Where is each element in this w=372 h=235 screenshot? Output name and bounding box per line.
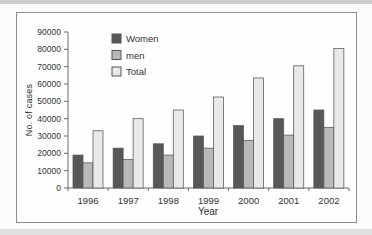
scan-edge-bottom [0,229,372,235]
bar-total-1996 [93,131,103,188]
bar-women-2001 [274,119,284,188]
legend-swatch-total [112,67,121,76]
bar-total-2001 [294,66,304,188]
bar-total-1997 [133,119,143,188]
bar-women-1999 [193,136,203,188]
bar-women-1996 [73,155,83,188]
bar-women-2002 [314,110,324,188]
y-axis-tick-label: 60000 [37,79,61,89]
bar-chart: 0100002000030000400005000060000700008000… [17,13,356,222]
bar-total-1999 [213,97,223,188]
scanned-figure-page: { "figure": { "ylabel": "No. of cases", … [0,0,372,235]
bar-women-2000 [234,126,244,188]
x-axis-category-label: 2001 [278,195,299,206]
y-axis-tick-label: 70000 [37,62,61,72]
y-axis-tick-label: 80000 [37,44,61,54]
x-axis-title: Year [153,206,263,217]
legend-label-women: Women [126,33,159,44]
x-axis-category-label: 1998 [158,195,179,206]
bar-men-2001 [284,135,294,188]
bar-men-1999 [203,148,213,188]
legend-label-men: men [126,50,144,61]
y-axis-tick-label: 90000 [37,27,61,37]
y-axis-tick-label: 50000 [37,96,61,106]
legend-label-total: Total [126,66,146,77]
bar-total-1998 [173,110,183,188]
bar-total-2002 [334,48,344,188]
scan-edge-top [0,0,372,4]
legend-swatch-women [112,34,121,43]
bar-men-1998 [163,155,173,188]
x-axis-category-label: 2002 [318,195,339,206]
bar-men-1997 [123,159,133,188]
legend-swatch-men [112,51,121,60]
bar-total-2000 [254,78,264,188]
bar-women-1998 [153,144,163,188]
x-axis-category-label: 1999 [198,195,219,206]
x-axis-category-label: 2000 [238,195,259,206]
bar-women-1997 [113,148,123,188]
y-axis-tick-label: 0 [56,183,61,193]
figure-frame: 0100002000030000400005000060000700008000… [16,12,357,223]
y-axis-tick-label: 40000 [37,114,61,124]
bar-men-1996 [83,163,93,188]
y-axis-tick-label: 20000 [37,148,61,158]
bar-men-2000 [244,140,254,188]
y-axis-title: No. of cases [24,60,36,160]
bar-men-2002 [324,127,334,188]
x-axis-category-label: 1996 [78,195,99,206]
y-axis-tick-label: 10000 [37,166,61,176]
x-axis-category-label: 1997 [118,195,139,206]
y-axis-tick-label: 30000 [37,131,61,141]
